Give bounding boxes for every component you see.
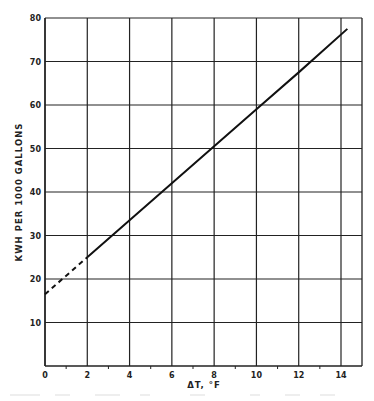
- x-axis-label: ΔT, °F: [187, 380, 220, 390]
- svg-text:0: 0: [42, 371, 48, 380]
- svg-text:4: 4: [127, 371, 133, 380]
- svg-text:40: 40: [30, 188, 42, 197]
- grid: [45, 18, 362, 366]
- svg-text:2: 2: [84, 371, 90, 380]
- svg-text:10: 10: [30, 319, 42, 328]
- svg-text:20: 20: [30, 275, 42, 284]
- svg-text:8: 8: [211, 371, 217, 380]
- svg-text:60: 60: [30, 101, 42, 110]
- svg-text:80: 80: [30, 14, 42, 23]
- y-axis-label: KWH PER 1000 GALLONS: [14, 123, 24, 262]
- svg-text:50: 50: [30, 145, 42, 154]
- svg-text:10: 10: [251, 371, 263, 380]
- svg-text:6: 6: [169, 371, 175, 380]
- axis-ticks: 024681012141020304050607080: [30, 14, 347, 380]
- svg-text:70: 70: [30, 58, 42, 67]
- data-lines: [45, 29, 347, 294]
- line-chart: 024681012141020304050607080 ΔT, °F KWH P…: [0, 0, 374, 401]
- svg-text:30: 30: [30, 232, 42, 241]
- svg-text:12: 12: [293, 371, 304, 380]
- svg-text:14: 14: [335, 371, 347, 380]
